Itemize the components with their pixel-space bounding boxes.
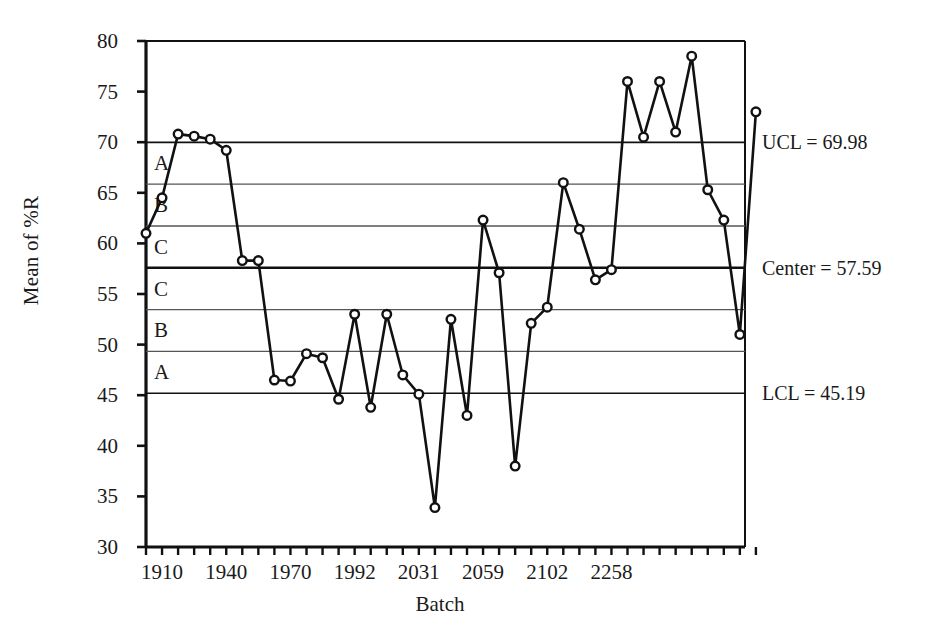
data-point [286,377,295,386]
data-point [511,462,520,471]
data-point [543,303,552,312]
data-point [318,353,327,362]
data-point [206,135,215,144]
data-point [302,349,311,358]
plot-area [0,0,935,638]
data-point [415,390,424,399]
data-point [334,395,343,404]
data-point [479,216,488,225]
data-point [655,77,664,86]
data-point [238,256,247,265]
data-point [463,411,472,420]
data-point [607,265,616,274]
data-point [366,403,375,412]
data-point [382,310,391,319]
data-point [254,256,263,265]
data-point [222,146,231,155]
data-point [447,315,456,324]
data-point [174,130,183,139]
data-point [270,376,279,385]
data-line [146,56,756,507]
data-point [623,77,632,86]
data-point [158,194,167,203]
data-point [399,371,408,380]
data-point [736,330,745,339]
data-point [687,52,696,61]
data-point [575,225,584,234]
data-point [639,133,648,142]
data-point [350,310,359,319]
data-point [720,216,729,225]
data-point [190,132,199,141]
data-point [495,268,504,277]
data-point [559,178,568,187]
data-point [671,128,680,137]
data-point [431,503,440,512]
data-point [527,319,536,328]
control-chart: Mean of %R Batch 3035404550556065707580 … [0,0,935,638]
data-point [752,108,761,117]
data-point [703,185,712,194]
data-point [591,276,600,285]
data-point [142,229,151,238]
